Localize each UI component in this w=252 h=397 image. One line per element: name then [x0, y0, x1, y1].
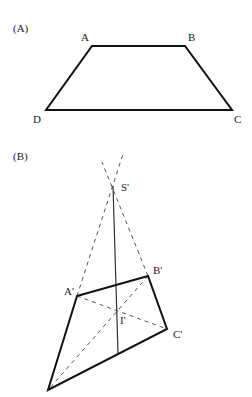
panel-b: (B) S' A' B' C' I': [13, 150, 182, 390]
vertex-b-label: B: [188, 31, 195, 43]
dashed-line-b-s: [102, 162, 148, 276]
intersection-i-label: I': [120, 314, 126, 326]
panel-b-label: (B): [13, 150, 28, 163]
diagonal-b-d: [48, 276, 148, 390]
vertex-d-label: D: [33, 113, 41, 125]
panel-a: (A) A B C D: [13, 22, 241, 125]
trapezoid-abcd: [46, 46, 232, 110]
vertex-a-label: A: [81, 31, 89, 43]
vertex-s-label: S': [121, 181, 129, 193]
vertex-a-prime-label: A': [64, 285, 74, 297]
vertex-c-label: C: [234, 113, 241, 125]
vertex-b-prime-label: B': [153, 264, 162, 276]
vertex-c-prime-label: C': [173, 328, 182, 340]
diagram-canvas: (A) A B C D (B) S' A' B' C' I': [0, 0, 252, 397]
line-s-i: [113, 186, 118, 353]
panel-a-label: (A): [13, 22, 29, 35]
